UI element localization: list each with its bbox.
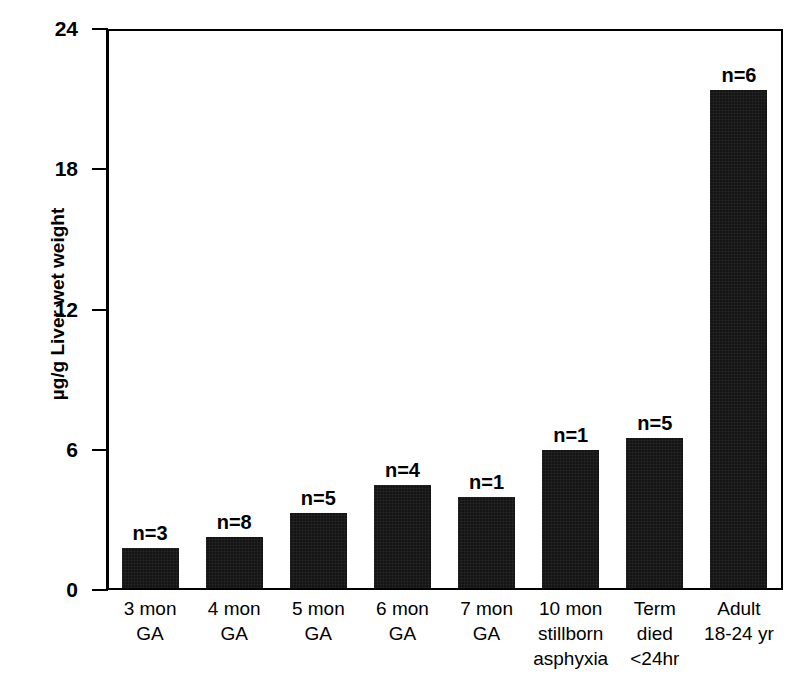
y-axis-tick-label: 0: [34, 579, 78, 600]
x-axis-category-line: GA: [102, 621, 198, 646]
bar-group: n=5: [626, 29, 683, 588]
x-axis-category-label: Termdied<24hr: [607, 596, 703, 671]
bar-group: n=8: [206, 29, 263, 588]
x-axis-category-label: 6 monGA: [354, 596, 450, 646]
x-axis-category-line: asphyxia: [523, 646, 619, 671]
bar[interactable]: [626, 438, 683, 588]
y-axis-tick: [92, 168, 108, 170]
x-axis-category-line: <24hr: [607, 646, 703, 671]
bar-sample-size-label: n=1: [469, 472, 504, 492]
bar[interactable]: [710, 90, 767, 588]
x-axis-category-label: 3 monGA: [102, 596, 198, 646]
y-axis-tick-label: 18: [34, 158, 78, 179]
bar-group: n=1: [542, 29, 599, 588]
y-axis-tick: [92, 449, 108, 451]
x-axis-category-line: Term: [607, 596, 703, 621]
bar-sample-size-label: n=5: [301, 488, 336, 508]
x-axis-category-line: GA: [186, 621, 282, 646]
x-axis-category-label: Adult18-24 yr: [691, 596, 787, 646]
x-axis-category-line: GA: [354, 621, 450, 646]
bar-group: n=1: [458, 29, 515, 588]
x-axis-category-label: 4 monGA: [186, 596, 282, 646]
x-axis-category-line: stillborn: [523, 621, 619, 646]
bar-sample-size-label: n=6: [721, 65, 756, 85]
bar-group: n=3: [122, 29, 179, 588]
bar-chart: µg/g Liver wet weight 06121824 n=3n=8n=5…: [0, 0, 805, 675]
x-axis-category-line: 18-24 yr: [691, 621, 787, 646]
x-axis-category-line: 10 mon: [523, 596, 619, 621]
x-axis-category-line: 5 mon: [270, 596, 366, 621]
x-axis-category-line: 6 mon: [354, 596, 450, 621]
x-axis-category-line: died: [607, 621, 703, 646]
y-axis-tick: [92, 28, 108, 30]
y-axis-tick-label: 24: [34, 18, 78, 39]
x-axis-category-label: 7 monGA: [439, 596, 535, 646]
y-axis-tick-label: 6: [34, 439, 78, 460]
x-axis-category-line: 4 mon: [186, 596, 282, 621]
bar[interactable]: [206, 537, 263, 588]
y-axis-tick: [92, 589, 108, 591]
bar[interactable]: [458, 497, 515, 588]
bar-group: n=6: [710, 29, 767, 588]
y-axis-tick: [92, 309, 108, 311]
x-axis-category-line: 7 mon: [439, 596, 535, 621]
x-axis-category-label: 5 monGA: [270, 596, 366, 646]
bar-sample-size-label: n=5: [637, 413, 672, 433]
bar[interactable]: [290, 513, 347, 588]
x-axis-category-line: GA: [439, 621, 535, 646]
bar-sample-size-label: n=3: [133, 523, 168, 543]
bar-sample-size-label: n=1: [553, 425, 588, 445]
bar-group: n=4: [374, 29, 431, 588]
bar-sample-size-label: n=4: [385, 460, 420, 480]
bar[interactable]: [542, 450, 599, 588]
bar[interactable]: [374, 485, 431, 588]
bar-sample-size-label: n=8: [217, 512, 252, 532]
x-axis-category-line: 3 mon: [102, 596, 198, 621]
bar[interactable]: [122, 548, 179, 588]
x-axis-category-label: 10 monstillbornasphyxia: [523, 596, 619, 671]
y-axis-tick-label: 12: [34, 299, 78, 320]
bar-group: n=5: [290, 29, 347, 588]
x-axis-category-line: GA: [270, 621, 366, 646]
x-axis-labels: 3 monGA4 monGA5 monGA6 monGA7 monGA10 mo…: [108, 596, 781, 675]
bars-container: n=3n=8n=5n=4n=1n=1n=5n=6: [108, 29, 781, 588]
x-axis-category-line: Adult: [691, 596, 787, 621]
